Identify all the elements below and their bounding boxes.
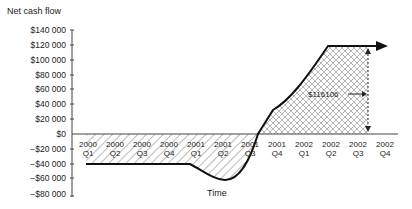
y-tick-label: −$60 000	[8, 173, 66, 183]
x-tick-label: 2001Q1	[181, 140, 211, 158]
y-tick-label: $40 000	[8, 99, 66, 109]
chart-title: Net cash flow	[7, 6, 61, 16]
x-axis-title: Time	[207, 188, 227, 198]
y-tick-label: $120 000	[8, 40, 66, 50]
x-tick-label: 2000Q3	[127, 140, 157, 158]
y-tick-label: $100 000	[8, 55, 66, 65]
x-tick-label: 2002Q2	[316, 140, 346, 158]
y-tick-label: −$20 000	[8, 144, 66, 154]
x-tick-label: 2000Q2	[100, 140, 130, 158]
x-tick-label: 2000Q1	[73, 140, 103, 158]
arrowhead	[376, 41, 388, 51]
net-cash-flow-chart: Net cash flow $140 000 $120 000 $100 000…	[0, 0, 412, 209]
y-tick-label: $80 000	[8, 70, 66, 80]
x-tick-label: 2001Q3	[235, 140, 265, 158]
y-tick-label: $0	[8, 129, 66, 139]
y-tick-label: $60 000	[8, 84, 66, 94]
x-tick-label: 2002Q1	[289, 140, 319, 158]
x-tick-label: 2001Q4	[262, 140, 292, 158]
x-tick-label: 2000Q4	[154, 140, 184, 158]
x-tick-label: 2001Q2	[208, 140, 238, 158]
y-tick-label: $140 000	[8, 25, 66, 35]
x-tick-label: 2002Q3	[343, 140, 373, 158]
annotation-label: $116106	[308, 90, 339, 99]
y-tick-label: −$80 000	[8, 189, 66, 199]
y-tick-label: −$40 000	[8, 159, 66, 169]
x-tick-label: 2002Q4	[370, 140, 400, 158]
y-tick-label: $20 000	[8, 114, 66, 124]
